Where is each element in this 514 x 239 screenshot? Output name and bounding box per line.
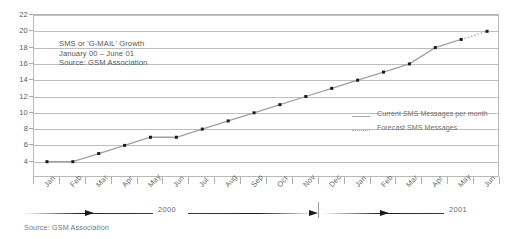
y-tick-label-16: 16 xyxy=(8,58,28,67)
data-point-marker xyxy=(408,62,411,65)
data-point-marker xyxy=(149,136,152,139)
y-tick-mark xyxy=(29,144,33,145)
x-tick-mark xyxy=(499,177,500,184)
y-tick-label-12: 12 xyxy=(8,91,28,100)
year-label-2001: 2001 xyxy=(449,205,467,214)
legend-solid-line-icon xyxy=(352,116,370,117)
data-point-marker xyxy=(227,119,230,122)
data-point-marker xyxy=(175,136,178,139)
legend-label-current: Current SMS Messages per month xyxy=(377,110,488,117)
arrow-shaft xyxy=(188,213,316,214)
y-tick-mark xyxy=(29,161,33,162)
data-point-marker xyxy=(97,152,100,155)
data-point-marker xyxy=(71,160,74,163)
data-point-marker xyxy=(278,103,281,106)
y-tick-mark xyxy=(29,112,33,113)
y-tick-mark xyxy=(29,96,33,97)
forecast-line xyxy=(461,31,487,39)
y-tick-label-14: 14 xyxy=(8,75,28,84)
y-tick-mark xyxy=(29,30,33,31)
chart-root: 46810121416182022 JanFebMarAprMayJunJulA… xyxy=(0,0,514,239)
y-tick-label-10: 10 xyxy=(8,107,28,116)
year-2000-arrow-left xyxy=(23,211,153,216)
y-tick-mark xyxy=(29,63,33,64)
year-2001-arrow xyxy=(322,211,444,216)
annotation-title: SMS or 'G-MAIL' Growth xyxy=(59,39,147,49)
y-tick-mark xyxy=(29,47,33,48)
legend-label-forecast: Forecast SMS Messages xyxy=(377,124,457,131)
y-tick-label-18: 18 xyxy=(8,42,28,51)
data-point-marker xyxy=(45,160,48,163)
arrow-head-icon xyxy=(85,210,94,216)
data-point-marker xyxy=(304,95,307,98)
chart-annotation: SMS or 'G-MAIL' Growth January 00 – June… xyxy=(59,39,147,68)
annotation-period: January 00 – June 01 xyxy=(59,49,147,59)
year-axis xyxy=(0,206,514,220)
legend-dotted-line-icon xyxy=(352,130,370,131)
data-point-marker xyxy=(356,79,359,82)
y-tick-mark xyxy=(29,14,33,15)
data-point-marker xyxy=(486,30,489,33)
data-point-marker xyxy=(382,71,385,74)
data-point-marker xyxy=(201,128,204,131)
annotation-source: Source: GSM Association xyxy=(59,58,147,68)
y-tick-label-8: 8 xyxy=(8,124,28,133)
arrow-head-icon xyxy=(309,210,318,216)
data-point-marker xyxy=(253,111,256,114)
y-tick-label-4: 4 xyxy=(8,156,28,165)
data-point-marker xyxy=(434,46,437,49)
y-tick-mark xyxy=(29,128,33,129)
y-tick-label-6: 6 xyxy=(8,140,28,149)
y-tick-label-20: 20 xyxy=(8,26,28,35)
data-point-marker xyxy=(330,87,333,90)
footer-source: Source: GSM Association xyxy=(24,223,109,232)
year-label-2000: 2000 xyxy=(158,205,176,214)
y-tick-label-22: 22 xyxy=(8,10,28,19)
year-2000-arrow-right xyxy=(188,211,316,216)
data-point-marker xyxy=(123,144,126,147)
arrow-head-icon xyxy=(380,210,389,216)
year-divider xyxy=(318,202,319,218)
data-point-marker xyxy=(460,38,463,41)
y-tick-mark xyxy=(29,79,33,80)
